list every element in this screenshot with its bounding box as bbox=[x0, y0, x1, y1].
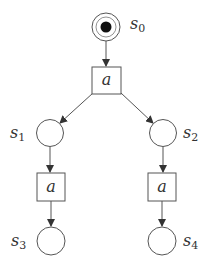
place-label-s1: s1 bbox=[10, 123, 25, 144]
transition-label-t2: a bbox=[157, 177, 167, 196]
place-label-s2: s2 bbox=[183, 123, 198, 144]
transition-label-t0: a bbox=[102, 70, 112, 89]
transition-label-t1: a bbox=[46, 177, 56, 196]
place-label-s0: s0 bbox=[130, 14, 145, 35]
place-s2 bbox=[150, 120, 177, 147]
place-s1 bbox=[37, 120, 64, 147]
place-s0 bbox=[92, 13, 120, 41]
arc-t0-s2 bbox=[121, 93, 153, 123]
petri-net-diagram: s0 a s1 s2 a a s3 s4 bbox=[0, 0, 216, 264]
place-label-s3: s3 bbox=[11, 231, 26, 252]
place-label-s4: s4 bbox=[183, 231, 198, 252]
token-icon bbox=[101, 22, 112, 33]
arc-t0-s1 bbox=[60, 93, 93, 123]
place-s3 bbox=[37, 227, 65, 255]
place-s4 bbox=[148, 227, 176, 255]
